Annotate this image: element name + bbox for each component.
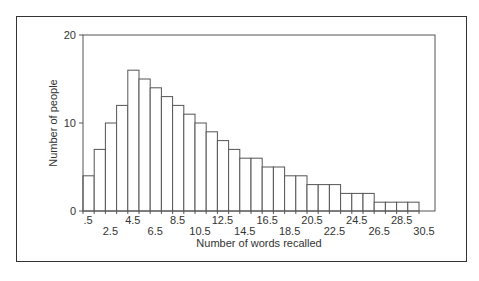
histogram-bar: [262, 167, 273, 211]
y-axis-label: Number of people: [47, 79, 59, 166]
y-axis: 01020: [64, 29, 83, 217]
histogram-bar: [83, 176, 94, 211]
x-tick-label: 22.5: [324, 225, 345, 237]
y-tick-label: 10: [64, 117, 76, 129]
x-tick-label: 10.5: [189, 225, 210, 237]
histogram-bar: [150, 88, 161, 211]
histogram-chart: 01020 .54.58.512.516.520.524.528.52.56.5…: [0, 0, 479, 281]
histogram-bar: [195, 123, 206, 211]
histogram-bar: [285, 176, 296, 211]
histogram-bar: [318, 185, 329, 211]
histogram-bar: [161, 97, 172, 211]
histogram-bar: [217, 141, 228, 211]
x-axis: .54.58.512.516.520.524.528.52.56.510.514…: [83, 211, 435, 237]
histogram-bar: [385, 202, 396, 211]
histogram-bar: [251, 158, 262, 211]
histogram-bar: [128, 70, 139, 211]
histogram-bar: [139, 79, 150, 211]
x-tick-label: 24.5: [346, 214, 367, 226]
x-axis-label: Number of words recalled: [196, 237, 321, 249]
x-tick-label: 20.5: [301, 214, 322, 226]
histogram-bar: [329, 185, 340, 211]
x-tick-label: 12.5: [212, 214, 233, 226]
x-tick-label: 18.5: [279, 225, 300, 237]
x-tick-label: 14.5: [234, 225, 255, 237]
histogram-bar: [363, 193, 374, 211]
x-tick-label: 28.5: [391, 214, 412, 226]
histogram-bar: [341, 193, 352, 211]
x-tick-label: 6.5: [148, 225, 163, 237]
x-tick-label: .5: [83, 214, 92, 226]
x-tick-label: 16.5: [256, 214, 277, 226]
x-tick-label: 8.5: [170, 214, 185, 226]
histogram-bar: [240, 158, 251, 211]
x-tick-label: 2.5: [103, 225, 118, 237]
y-tick-label: 20: [64, 29, 76, 41]
histogram-bar: [94, 149, 105, 211]
histogram-bar: [397, 202, 408, 211]
histogram-bar: [408, 202, 419, 211]
x-tick-label: 30.5: [413, 225, 434, 237]
histogram-bar: [184, 114, 195, 211]
x-tick-label: 4.5: [125, 214, 140, 226]
histogram-bar: [173, 105, 184, 211]
histogram-bar: [229, 149, 240, 211]
histogram-bar: [352, 193, 363, 211]
histogram-bar: [105, 123, 116, 211]
y-tick-label: 0: [70, 205, 76, 217]
histogram-bar: [117, 105, 128, 211]
histogram-bar: [307, 185, 318, 211]
histogram-bar: [296, 176, 307, 211]
histogram-bar: [206, 132, 217, 211]
bars: [83, 70, 419, 211]
histogram-bar: [374, 202, 385, 211]
histogram-bar: [273, 167, 284, 211]
x-tick-label: 26.5: [368, 225, 389, 237]
